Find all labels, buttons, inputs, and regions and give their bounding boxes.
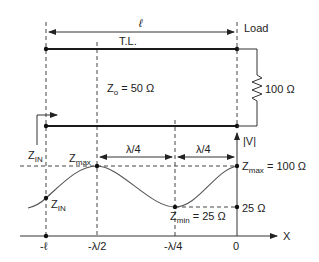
tick-minus-half-lambda: -λ/2 <box>88 240 106 252</box>
zmax-point-right <box>235 164 239 168</box>
tick-minus-l: -ℓ <box>40 240 48 252</box>
zin-arrow-icon <box>37 115 57 145</box>
quarter-wave-label-right: λ/4 <box>196 143 211 155</box>
zin-curve-label: ZIN <box>51 198 66 213</box>
load-resistor-icon <box>237 49 262 126</box>
impedance-curve <box>28 166 237 208</box>
zmax-point-left <box>95 164 99 168</box>
tick-minus-quarter-lambda: -λ/4 <box>164 240 182 252</box>
length-label: ℓ <box>138 17 143 29</box>
tl-label: T.L. <box>119 35 137 47</box>
transmission-line-diagram: ℓ Load T.L. Zo = 50 Ω 100 Ω ZIN X |V| λ/… <box>0 0 319 262</box>
terminal-top-left <box>44 47 48 51</box>
x-axis-label: X <box>283 230 291 242</box>
load-label: Load <box>244 22 268 34</box>
zmin-point <box>173 205 177 209</box>
level-25-point <box>235 205 239 209</box>
terminal-bottom-left <box>44 124 48 128</box>
zin-point <box>44 196 48 200</box>
zmax-left-label: Zmax <box>69 152 91 167</box>
resistor-label: 100 Ω <box>265 83 295 95</box>
zin-top-label: ZIN <box>28 149 43 164</box>
zmin-label: Zmin = 25 Ω <box>170 210 226 225</box>
quarter-wave-label-left: λ/4 <box>126 143 141 155</box>
z0-label: Zo = 50 Ω <box>107 82 154 97</box>
y-axis-label: |V| <box>243 135 256 147</box>
level-25-label: 25 Ω <box>242 202 266 214</box>
origin-minus-l-point <box>44 234 48 238</box>
tick-zero: 0 <box>233 240 239 252</box>
zmax-right-label: Zmax = 100 Ω <box>242 160 306 175</box>
